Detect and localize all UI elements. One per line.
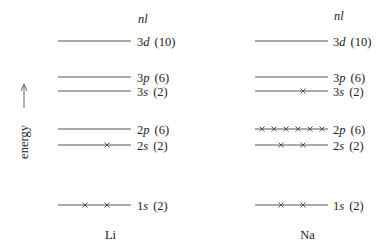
level-label: 1s(2) bbox=[137, 199, 168, 213]
level-2p: 2p(6) bbox=[255, 123, 365, 137]
level-label: 3d(10) bbox=[137, 35, 175, 49]
atom-label: Na bbox=[300, 228, 315, 242]
level-2s: 2s(2) bbox=[58, 139, 168, 153]
energy-axis-label: energy bbox=[17, 124, 31, 159]
level-label: 3s(2) bbox=[137, 85, 168, 99]
level-2p: 2p(6) bbox=[58, 123, 169, 137]
atom-label: Li bbox=[105, 228, 117, 242]
levels-group: 3d(10)3p(6)3s(2)2p(6)2s(2)1s(2)Li3d(10)3… bbox=[58, 35, 371, 243]
atom-li: 3d(10)3p(6)3s(2)2p(6)2s(2)1s(2)Li bbox=[58, 35, 175, 243]
level-label: 2s(2) bbox=[137, 139, 168, 153]
level-2s: 2s(2) bbox=[255, 139, 364, 153]
level-3p: 3p(6) bbox=[255, 71, 365, 85]
level-label: 3p(6) bbox=[137, 71, 169, 85]
level-label: 3d(10) bbox=[333, 35, 371, 49]
level-3s: 3s(2) bbox=[58, 85, 168, 99]
energy-arrow-icon bbox=[21, 84, 27, 108]
nl-header-na: nl bbox=[334, 9, 344, 23]
level-1s: 1s(2) bbox=[58, 199, 168, 213]
level-label: 2p(6) bbox=[333, 123, 365, 137]
level-label: 2s(2) bbox=[333, 139, 364, 153]
nl-header-li: nl bbox=[138, 12, 148, 26]
level-label: 3p(6) bbox=[333, 71, 365, 85]
level-3d: 3d(10) bbox=[255, 35, 371, 49]
energy-level-diagram: energy nl nl 3d(10)3p(6)3s(2)2p(6)2s(2)1… bbox=[0, 0, 381, 246]
level-label: 2p(6) bbox=[137, 123, 169, 137]
level-3s: 3s(2) bbox=[255, 85, 364, 99]
level-3d: 3d(10) bbox=[58, 35, 175, 49]
level-3p: 3p(6) bbox=[58, 71, 169, 85]
level-label: 3s(2) bbox=[333, 85, 364, 99]
level-label: 1s(2) bbox=[333, 199, 364, 213]
atom-na: 3d(10)3p(6)3s(2)2p(6)2s(2)1s(2)Na bbox=[255, 35, 371, 243]
level-1s: 1s(2) bbox=[255, 199, 364, 213]
